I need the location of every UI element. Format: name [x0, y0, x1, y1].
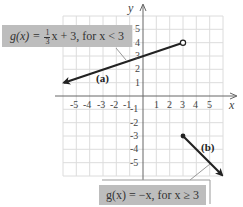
x-tick: -4 [83, 100, 91, 110]
closed-dot-endpoint [181, 134, 186, 139]
leader-line-a [116, 48, 126, 60]
leader-line-b-pointer [190, 164, 210, 180]
part-label-a: (a) [96, 72, 109, 84]
function-label-a: g(x) = 13x + 3, for x < 3 [2, 25, 133, 47]
x-tick: -5 [70, 100, 78, 110]
function-label-b: g(x) = −x, for x ≥ 3 [99, 185, 206, 205]
x-tick: -3 [97, 100, 105, 110]
x-tick: 2 [167, 100, 172, 110]
x-tick: 5 [207, 100, 212, 110]
y-tick: 4 [135, 38, 140, 48]
y-tick: 1 [135, 78, 140, 88]
y-tick: 5 [135, 24, 140, 34]
x-axis-label: x [229, 98, 234, 113]
y-tick: 3 [135, 51, 140, 61]
y-tick: -4 [130, 144, 138, 154]
fraction: 13 [44, 29, 50, 46]
y-tick: -2 [130, 118, 138, 128]
x-tick: 1 [154, 100, 159, 110]
y-tick: -5 [130, 158, 138, 168]
function-label-a-prefix: g(x) = [10, 29, 43, 43]
part-label-b: (b) [201, 141, 214, 153]
function-label-a-suffix: x + 3, for x < 3 [51, 29, 124, 43]
open-circle-endpoint [180, 40, 185, 45]
y-axis-label: y [128, 1, 133, 16]
y-tick: 2 [135, 64, 140, 74]
x-tick: 3 [180, 100, 185, 110]
x-tick: -2 [110, 100, 118, 110]
y-tick: -1 [130, 104, 138, 114]
y-tick: -3 [130, 131, 138, 141]
x-tick: 4 [193, 100, 198, 110]
graph-piece-a [64, 43, 183, 83]
